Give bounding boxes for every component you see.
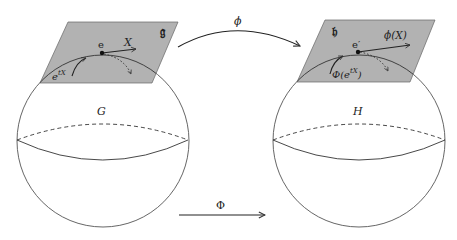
- label-group-g: G: [97, 105, 106, 118]
- label-phi: ϕ: [234, 15, 242, 28]
- equator-back-g: [17, 124, 188, 140]
- label-x: X: [123, 36, 133, 49]
- arrow-phi-top: ϕ: [178, 15, 300, 47]
- label-group-h: H: [352, 105, 363, 118]
- label-e: e: [98, 39, 104, 50]
- lie-homomorphism-diagram: e X 𝔤 etX G e′ ϕ(X) 𝔥 Φ(etX) H ϕ Φ: [0, 0, 457, 240]
- label-big-phi: Φ: [216, 199, 225, 212]
- label-algebra-h: 𝔥: [331, 25, 338, 39]
- right-group: e′ ϕ(X) 𝔥 Φ(etX) H: [273, 20, 445, 227]
- label-phi-x: ϕ(X): [384, 29, 407, 41]
- left-group: e X 𝔤 etX G: [17, 22, 189, 227]
- equator-front-g: [17, 140, 188, 160]
- equator-back-h: [273, 124, 445, 140]
- label-e-prime: e′: [352, 39, 361, 50]
- equator-front-h: [273, 140, 445, 160]
- identity-point-e: [100, 51, 104, 55]
- arrow-phi-bottom: Φ: [179, 199, 265, 215]
- identity-point-e-prime: [356, 50, 360, 54]
- label-phi-etx: Φ(etX): [332, 67, 362, 80]
